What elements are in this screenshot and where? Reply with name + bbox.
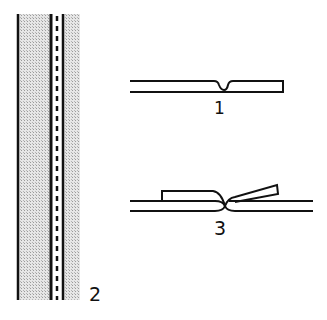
seam-top-edge: [130, 81, 283, 92]
figure-3-label: 3: [214, 219, 226, 238]
figure-1-seam-diagram: [125, 74, 290, 98]
figure-2-strip-diagram: [0, 0, 110, 320]
shaded-fabric-right: [64, 14, 80, 300]
shaded-fabric-left: [17, 14, 50, 300]
figure-3-seam-diagram: [125, 178, 320, 218]
base-line-lower-left: [130, 206, 225, 211]
figure-1-label: 1: [214, 100, 225, 117]
base-line-lower-right: [225, 206, 313, 211]
left-pressed-allowance: [162, 191, 225, 206]
figure-2-label: 2: [89, 285, 101, 304]
base-line-upper-left: [130, 201, 225, 206]
right-tilted-allowance: [225, 185, 278, 206]
